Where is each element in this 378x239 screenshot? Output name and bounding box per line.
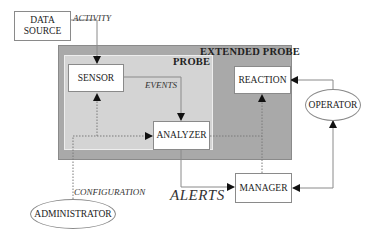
alerts-label: ALERTS xyxy=(170,187,225,204)
administrator-node: ADMINISTRATOR xyxy=(30,199,116,229)
manager-label: MANAGER xyxy=(239,183,287,194)
reaction-label: REACTION xyxy=(238,75,286,86)
configuration-label: CONFIGURATION xyxy=(74,187,145,197)
reaction-node: REACTION xyxy=(234,66,291,94)
events-label: EVENTS xyxy=(145,80,177,90)
analyzer-label: ANALYZER xyxy=(156,130,206,141)
operator-node: OPERATOR xyxy=(305,89,361,121)
analyzer-node: ANALYZER xyxy=(153,121,210,150)
sensor-label: SENSOR xyxy=(78,73,114,84)
edge-activity xyxy=(70,20,97,63)
manager-node: MANAGER xyxy=(235,173,292,203)
sensor-node: SENSOR xyxy=(68,64,124,92)
data-source-node: DATA SOURCE xyxy=(14,11,71,41)
administrator-label: ADMINISTRATOR xyxy=(34,209,111,219)
data-source-label-1: DATA xyxy=(30,15,55,26)
activity-label: ACTIVITY xyxy=(73,13,111,23)
data-source-label-2: SOURCE xyxy=(24,26,61,37)
edge-operator-reaction xyxy=(291,80,333,89)
edge-alerts xyxy=(181,150,234,187)
operator-label: OPERATOR xyxy=(309,100,358,110)
